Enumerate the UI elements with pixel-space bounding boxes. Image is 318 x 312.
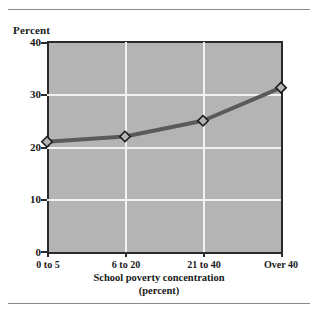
- x-axis-title: School poverty concentration (percent): [0, 271, 318, 297]
- x-axis-title-line2: (percent): [0, 284, 318, 297]
- plot-wrapper: 40 30 20 10 0 0 to 5 6 to 20 21 to 40 Ov…: [0, 0, 318, 312]
- x-axis-title-line1: School poverty concentration: [93, 272, 224, 283]
- bottom-divider-rule: [8, 303, 310, 304]
- data-point-marker: [120, 131, 130, 141]
- figure: Percent 40 30 20 10 0 0 to 5 6 to 20 21 …: [0, 0, 318, 312]
- series-markers: [42, 82, 286, 146]
- series-line-path: [47, 88, 281, 142]
- series-line-chart: [0, 0, 318, 312]
- data-point-marker: [42, 137, 52, 147]
